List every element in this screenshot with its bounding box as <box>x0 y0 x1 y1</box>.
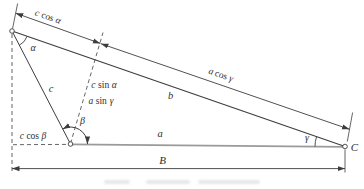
label-c-cos-beta-var: c <box>20 131 25 141</box>
vertex-c-marker <box>343 144 348 149</box>
vertex-bottom-marker <box>68 142 73 147</box>
label-baseline-B: B <box>159 154 166 166</box>
side-a-line <box>71 144 346 146</box>
angle-arc-gamma <box>315 137 317 147</box>
label-side-a: a <box>157 128 162 139</box>
label-c-sin-alpha-arg: α <box>112 80 118 90</box>
label-c-cos-alpha-arg: α <box>54 15 63 26</box>
label-c-cos-alpha-fn: cos <box>40 10 56 24</box>
triangle-diagram-canvas: ccosα acosγ csinα asinγ ccosβ c b a α β … <box>0 0 364 189</box>
vertex-top-left-marker <box>10 29 15 34</box>
label-a-sin-gamma-fn: sin <box>96 96 107 106</box>
caption-smudge <box>146 180 190 184</box>
label-c-sin-alpha-var: c <box>91 80 96 90</box>
label-side-c: c <box>49 83 54 94</box>
label-c-cos-beta-arg: β <box>41 131 47 141</box>
label-angle-beta: β <box>79 115 85 126</box>
geometry-figure: ccosα acosγ csinα asinγ ccosβ c b a α β … <box>0 0 364 189</box>
label-c-sin-alpha-fn: sin <box>98 80 109 90</box>
label-a-cos-gamma-arg: γ <box>228 73 235 84</box>
extension-tick-a <box>13 4 18 29</box>
dim-line-a-cos-gamma <box>101 44 350 130</box>
label-a-sin-gamma-arg: γ <box>110 96 114 106</box>
label-a-sin-gamma-var: a <box>88 96 93 106</box>
label-c-cos-alpha: ccosα <box>34 7 64 26</box>
extension-tick-c <box>347 113 352 142</box>
label-a-cos-gamma: acosγ <box>207 66 235 84</box>
side-b-line <box>12 31 345 147</box>
caption-smudge <box>104 180 130 184</box>
label-c-cos-beta-fn: cos <box>26 131 39 141</box>
label-a-cos-gamma-fn: cos <box>214 68 230 82</box>
label-side-b: b <box>168 90 173 101</box>
label-a-sin-gamma: asinγ <box>88 96 113 106</box>
angle-arc-alpha <box>19 36 27 45</box>
label-c-sin-alpha: csinα <box>91 80 117 90</box>
label-vertex-C: C <box>351 141 359 153</box>
label-c-cos-beta: ccosβ <box>20 131 47 141</box>
label-angle-alpha: α <box>30 42 36 53</box>
caption-smudge <box>198 180 260 184</box>
